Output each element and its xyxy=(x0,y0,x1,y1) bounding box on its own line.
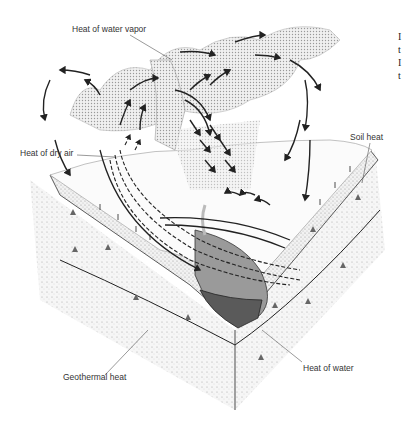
edge-text-fragments: I t I t xyxy=(398,30,401,82)
label-heat-of-water-vapor: Heat of water vapor xyxy=(72,24,146,34)
label-geothermal-heat: Geothermal heat xyxy=(63,372,126,382)
edge-fragment: I xyxy=(398,30,401,43)
heat-sources-diagram xyxy=(0,0,403,423)
label-heat-of-water: Heat of water xyxy=(303,363,354,373)
edge-fragment: I xyxy=(398,56,401,69)
edge-fragment: t xyxy=(398,43,401,56)
edge-fragment: t xyxy=(398,69,401,82)
label-heat-of-dry-air: Heat of dry air xyxy=(20,148,73,158)
label-soil-heat: Soil heat xyxy=(350,132,383,142)
